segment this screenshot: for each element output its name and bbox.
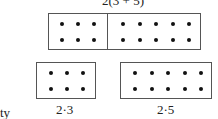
dot bbox=[138, 22, 142, 26]
dot bbox=[49, 87, 53, 91]
dot bbox=[65, 71, 69, 75]
dot bbox=[121, 22, 125, 26]
dot bbox=[81, 71, 85, 75]
dot bbox=[60, 38, 64, 42]
dot bbox=[92, 38, 96, 42]
bottom-left-label: 2·3 bbox=[56, 103, 73, 116]
dot bbox=[92, 22, 96, 26]
dot bbox=[150, 71, 154, 75]
dot bbox=[76, 38, 80, 42]
bottom-left-array-box bbox=[36, 62, 96, 99]
dot bbox=[121, 38, 125, 42]
dot bbox=[138, 38, 142, 42]
dot bbox=[81, 87, 85, 91]
dot bbox=[133, 87, 137, 91]
dot bbox=[171, 22, 175, 26]
dot bbox=[183, 71, 187, 75]
array-divider bbox=[107, 14, 108, 49]
dot bbox=[150, 87, 154, 91]
dot bbox=[183, 87, 187, 91]
dot bbox=[76, 22, 80, 26]
dot bbox=[166, 87, 170, 91]
dot bbox=[49, 71, 53, 75]
dot bbox=[154, 22, 158, 26]
dot bbox=[166, 71, 170, 75]
bottom-right-label: 2·5 bbox=[157, 103, 174, 116]
dot bbox=[187, 38, 191, 42]
top-array-box bbox=[48, 13, 201, 50]
top-expression-label: 2(3 + 5) bbox=[102, 0, 144, 7]
bottom-right-array-box bbox=[120, 62, 212, 99]
dot bbox=[154, 38, 158, 42]
dot bbox=[60, 22, 64, 26]
dot bbox=[199, 87, 203, 91]
dot bbox=[171, 38, 175, 42]
dot bbox=[133, 71, 137, 75]
dot bbox=[199, 71, 203, 75]
side-text-fragment: ty bbox=[0, 106, 10, 119]
dot bbox=[187, 22, 191, 26]
dot bbox=[65, 87, 69, 91]
